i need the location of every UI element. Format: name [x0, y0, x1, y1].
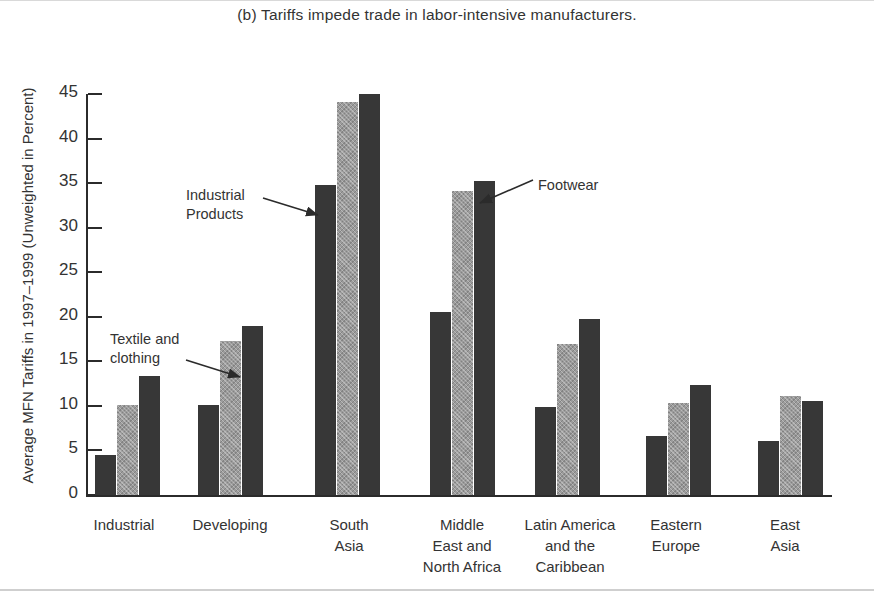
bar-textile-and-clothing: [337, 102, 358, 495]
y-tick-label-25: 25: [34, 260, 78, 280]
bar-group: [758, 94, 823, 495]
bar-industrial-products: [315, 185, 336, 495]
annotation-industrial-products: Industrial Products: [186, 186, 245, 224]
annotation-textile-clothing: Textile and clothing: [110, 330, 179, 368]
y-tick-label-35: 35: [34, 171, 78, 191]
bar-footwear: [139, 376, 160, 495]
bar-industrial-products: [430, 312, 451, 495]
x-axis-line: [86, 495, 832, 497]
bar-textile-and-clothing: [220, 341, 241, 495]
y-tick-label-10: 10: [34, 394, 78, 414]
bar-industrial-products: [535, 407, 556, 495]
y-tick-label-0: 0: [34, 483, 78, 503]
y-tick-label-30: 30: [34, 216, 78, 236]
bar-group: [95, 94, 160, 495]
bar-footwear: [802, 401, 823, 495]
bar-footwear: [242, 326, 263, 495]
y-tick-label-20: 20: [34, 305, 78, 325]
bar-group: [430, 94, 495, 495]
plot-area: [88, 94, 832, 495]
bar-industrial-products: [95, 455, 116, 495]
bar-industrial-products: [198, 405, 219, 495]
bar-textile-and-clothing: [557, 344, 578, 495]
bar-textile-and-clothing: [452, 191, 473, 495]
bar-footwear: [359, 94, 380, 495]
bar-footwear: [690, 385, 711, 495]
bar-group: [535, 94, 600, 495]
bar-group: [315, 94, 380, 495]
bar-industrial-products: [758, 441, 779, 495]
chart-figure: (b) Tariffs impede trade in labor-intens…: [0, 0, 874, 591]
bar-textile-and-clothing: [780, 396, 801, 495]
bar-industrial-products: [646, 436, 667, 495]
page-edge-top: [0, 0, 874, 1]
y-tick-label-5: 5: [34, 438, 78, 458]
bar-footwear: [474, 181, 495, 495]
y-axis-title: Average MFN Tariffs in 1997–1999 (Unweig…: [19, 46, 36, 526]
annotation-footwear: Footwear: [538, 176, 598, 195]
chart-title: (b) Tariffs impede trade in labor-intens…: [0, 6, 874, 24]
y-tick-label-40: 40: [34, 127, 78, 147]
x-category-label: EastAsia: [705, 514, 865, 556]
y-tick-label-15: 15: [34, 349, 78, 369]
y-tick-label-45: 45: [34, 82, 78, 102]
bar-textile-and-clothing: [117, 405, 138, 495]
bar-footwear: [579, 319, 600, 495]
bar-group: [646, 94, 711, 495]
bar-textile-and-clothing: [668, 403, 689, 495]
bar-group: [198, 94, 263, 495]
